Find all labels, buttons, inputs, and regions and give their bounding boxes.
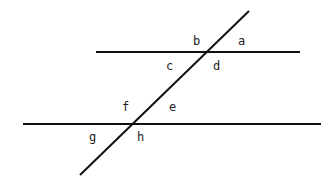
- angle-label-d: d: [213, 59, 220, 73]
- angle-label-h: h: [137, 130, 144, 144]
- angle-label-b: b: [193, 34, 200, 48]
- angle-label-a: a: [238, 34, 245, 48]
- angle-label-e: e: [169, 100, 176, 114]
- angle-label-g: g: [89, 130, 96, 144]
- angle-label-f: f: [122, 100, 129, 114]
- parallel-lines-transversal-diagram: a b c d e f g h: [0, 0, 334, 188]
- transversal-line: [80, 11, 249, 175]
- angle-label-c: c: [166, 59, 173, 73]
